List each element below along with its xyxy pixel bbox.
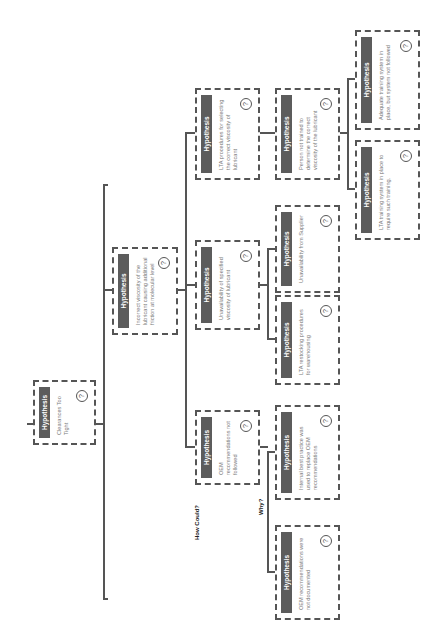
hypothesis-node-internal-best-practice[interactable]: Hypothesis Internal best practice was us…	[275, 405, 340, 500]
connector-l3-spine	[185, 134, 187, 291]
help-icon[interactable]: ?	[400, 150, 412, 162]
connector-l5-spine	[347, 80, 349, 190]
how-could-label: How Could?	[194, 505, 200, 540]
connector-l4-oem-a	[267, 572, 275, 574]
help-icon[interactable]: ?	[400, 40, 412, 52]
hypothesis-node-incorrect-viscosity[interactable]: Hypothesis Incorrect viscosity of the lu…	[112, 247, 178, 335]
node-header: Hypothesis	[281, 95, 292, 173]
help-icon[interactable]: ?	[240, 250, 252, 262]
connector-l5-b	[347, 79, 355, 81]
node-header: Hypothesis	[201, 417, 212, 478]
help-icon[interactable]: ?	[320, 305, 332, 317]
hypothesis-node-oem-not-documented[interactable]: Hypothesis OEM recommendations were not …	[275, 525, 340, 620]
node-text: OEM recommendations were not documented	[298, 535, 312, 610]
hypothesis-node-lta-restocking[interactable]: Hypothesis LTA restocking procedures for…	[275, 295, 340, 385]
help-icon[interactable]: ?	[76, 390, 88, 402]
connector-l4-unavail-from	[260, 285, 268, 287]
connector-l4-unavail-b	[267, 249, 275, 251]
connector-l4-unavail-spine	[267, 250, 269, 340]
connector-l4-lta	[260, 133, 275, 135]
help-icon[interactable]: ?	[320, 535, 332, 547]
help-icon[interactable]: ?	[320, 215, 332, 227]
hypothesis-node-unavailability-supplier[interactable]: Hypothesis Unavailability from Supplier …	[275, 205, 340, 293]
node-header: Hypothesis	[201, 247, 212, 323]
connector-l2-spine	[185, 291, 187, 448]
connector-l3-a	[185, 285, 195, 287]
connector-l4-oem-b	[267, 452, 275, 454]
connector-l2-right-up	[104, 290, 112, 292]
node-text: Clearances Too Tight	[56, 390, 70, 435]
node-header: Hypothesis	[361, 37, 372, 123]
node-header: Hypothesis	[118, 254, 129, 328]
node-text: Incorrect viscosity of the lubricant cau…	[135, 257, 156, 325]
node-text: Unavailability of specified viscosity of…	[218, 250, 232, 320]
node-text: Person not trained to determine the corr…	[298, 98, 319, 170]
node-text: OEM recommendations not followed	[218, 420, 239, 475]
hypothesis-node-oem-not-followed[interactable]: Hypothesis OEM recommendations not follo…	[195, 410, 260, 485]
node-text: LTA restocking procedures for warehousin…	[298, 305, 312, 375]
node-header: Hypothesis	[281, 412, 292, 493]
node-text: LTA training system in place to require …	[378, 150, 392, 230]
node-header: Hypothesis	[201, 95, 212, 173]
node-header: Hypothesis	[361, 147, 372, 233]
hypothesis-node-unavailability-specified[interactable]: Hypothesis Unavailability of specified v…	[195, 240, 260, 330]
connector-l3-b	[185, 133, 195, 135]
help-icon[interactable]: ?	[158, 257, 170, 269]
help-icon[interactable]: ?	[320, 415, 332, 427]
hypothesis-node-person-not-trained[interactable]: Hypothesis Person not trained to determi…	[275, 88, 340, 180]
connector-root-out	[96, 424, 104, 426]
connector-l5-a	[347, 189, 355, 191]
hypothesis-node-adequate-training[interactable]: Hypothesis Adequate training system in p…	[355, 30, 420, 130]
help-icon[interactable]: ?	[240, 420, 252, 432]
connector-l3-spine-horiz	[185, 447, 195, 449]
hypothesis-node-lta-procedures[interactable]: Hypothesis LTA procedures for selecting …	[195, 88, 260, 180]
hypothesis-node-lta-training-system[interactable]: Hypothesis LTA training system in place …	[355, 140, 420, 240]
connector-spine-end-tick	[103, 185, 108, 187]
node-text: Adequate training system in place, but s…	[378, 40, 392, 120]
node-header: Hypothesis	[39, 387, 50, 438]
connector-spine-start-tick	[103, 599, 108, 601]
connector-l4-oem-from	[260, 447, 268, 449]
hypothesis-node-root[interactable]: Hypothesis Clearances Too Tight ?	[33, 380, 96, 445]
node-header: Hypothesis	[281, 302, 292, 378]
hypothesis-tree-canvas: How Could? Why? Hypothesis Clearances To…	[0, 0, 433, 644]
why-label: Why?	[258, 499, 264, 515]
connector-spine	[103, 185, 105, 600]
help-icon[interactable]: ?	[240, 98, 252, 110]
node-text: Unavailability from Supplier	[298, 215, 305, 283]
node-text: LTA procedures for selecting the correct…	[218, 98, 239, 170]
help-icon[interactable]: ?	[320, 98, 332, 110]
node-text: Internal best practice was used to repla…	[298, 415, 319, 490]
node-header: Hypothesis	[281, 212, 292, 286]
node-header: Hypothesis	[281, 532, 292, 613]
connector-l4-oem-spine	[267, 453, 269, 573]
connector-l4-unavail-a	[267, 339, 275, 341]
